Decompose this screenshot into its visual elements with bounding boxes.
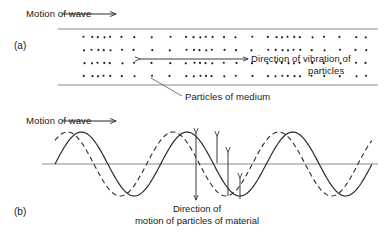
medium-particle-dot — [299, 36, 301, 38]
medium-particle-dot — [97, 36, 99, 38]
medium-particle-dot — [109, 49, 111, 51]
medium-particle-dot — [299, 49, 301, 51]
medium-particle-dot — [121, 75, 123, 77]
medium-particle-dot — [281, 75, 283, 77]
medium-particle-dot — [109, 36, 111, 38]
medium-particle-dot — [365, 75, 367, 77]
medium-particle-dot — [91, 75, 93, 77]
medium-particle-dot — [355, 75, 357, 77]
medium-particle-dot — [193, 75, 195, 77]
wave-diagram-figure: Motion of wave (a) Direction of vibratio… — [0, 0, 384, 234]
medium-particle-dot — [286, 36, 288, 38]
medium-particle-dot — [151, 75, 153, 77]
medium-particle-dot — [211, 62, 213, 64]
medium-particle-dot — [235, 49, 237, 51]
panel-label-b: (b) — [14, 206, 26, 217]
medium-particle-dot — [120, 36, 122, 38]
medium-particle-dot — [169, 36, 171, 38]
medium-particle-dot — [267, 75, 269, 77]
medium-particle-dot — [365, 49, 367, 51]
medium-particle-dot — [223, 62, 225, 64]
medium-particle-dot — [250, 49, 252, 51]
medium-particle-dot — [354, 49, 356, 51]
medium-particle-dot — [293, 36, 295, 38]
direction-of-motion-caption-line2: motion of particles of material — [97, 215, 297, 227]
medium-particle-dot — [311, 36, 313, 38]
medium-particle-dot — [169, 49, 171, 51]
medium-particle-dot — [287, 75, 289, 77]
medium-particle-dot — [223, 36, 225, 38]
medium-particle-dot — [193, 49, 195, 51]
medium-particle-dot — [299, 75, 301, 77]
medium-particle-dot — [97, 49, 99, 51]
medium-particle-dot — [133, 36, 135, 38]
direction-of-vibration-label-line1: Direction of vibration of — [251, 53, 351, 64]
medium-particle-dot — [355, 36, 357, 38]
medium-particle-dot — [338, 36, 340, 38]
panel-b-transverse-group — [42, 121, 378, 200]
medium-particle-dot — [121, 49, 123, 51]
medium-particle-dot — [323, 36, 325, 38]
medium-particle-dot — [82, 36, 84, 38]
medium-particle-dot — [133, 75, 135, 77]
medium-particle-dot — [83, 62, 85, 64]
medium-particle-dot — [91, 62, 93, 64]
medium-particle-dot — [97, 75, 99, 77]
medium-particle-dot — [151, 36, 153, 38]
medium-particle-dot — [223, 49, 225, 51]
medium-particle-dot — [251, 75, 253, 77]
medium-particle-dot — [211, 49, 213, 51]
medium-particle-dot — [275, 49, 277, 51]
medium-particle-dot — [210, 75, 212, 77]
medium-particle-dot — [292, 49, 294, 51]
medium-particle-dot — [91, 36, 93, 38]
medium-particle-dot — [365, 36, 367, 38]
medium-particle-dot — [150, 62, 152, 64]
medium-particle-dot — [211, 36, 213, 38]
direction-of-motion-caption-line1: Direction of — [112, 203, 282, 215]
medium-particle-dot — [205, 49, 207, 51]
medium-particle-dot — [223, 75, 225, 77]
particles-of-medium-leader-line — [151, 78, 182, 96]
medium-particle-dot — [199, 36, 201, 38]
medium-particle-dot — [199, 62, 201, 64]
medium-particle-dot — [103, 62, 105, 64]
medium-particle-dot — [199, 75, 201, 77]
medium-particle-dot — [251, 36, 253, 38]
medium-particle-dot — [102, 75, 104, 77]
medium-particle-dot — [311, 49, 313, 51]
medium-particle-dot — [234, 36, 236, 38]
medium-particle-dot — [281, 49, 283, 51]
medium-particle-dot — [339, 49, 341, 51]
medium-particle-dot — [235, 75, 237, 77]
medium-particle-dot — [275, 36, 277, 38]
medium-particle-dot — [83, 75, 85, 77]
panel-label-a: (a) — [14, 40, 26, 51]
medium-particle-dot — [109, 75, 111, 77]
medium-particle-dot — [103, 36, 105, 38]
medium-particle-dot — [168, 75, 170, 77]
medium-particle-dot — [287, 49, 289, 51]
particle-displacement-arrows — [196, 133, 240, 200]
medium-particle-dot — [192, 36, 194, 38]
medium-particle-dot — [205, 75, 207, 77]
medium-particle-dot — [364, 62, 366, 64]
medium-particle-dot — [293, 75, 295, 77]
medium-particle-dot — [267, 49, 269, 51]
medium-particle-dot — [323, 49, 325, 51]
medium-particle-dot — [267, 36, 269, 38]
motion-of-wave-label-b: Motion of wave — [26, 115, 91, 126]
medium-particle-dot — [133, 62, 135, 64]
medium-particle-dot — [96, 62, 98, 64]
medium-particle-dot — [103, 49, 105, 51]
medium-particle-dot — [151, 49, 153, 51]
medium-particle-dot — [281, 36, 283, 38]
medium-particle-dot — [185, 36, 187, 38]
medium-particle-dot — [132, 49, 134, 51]
medium-particle-dot — [185, 49, 187, 51]
medium-particle-dot — [185, 75, 187, 77]
medium-particle-dot — [355, 62, 357, 64]
medium-particle-dot — [235, 62, 237, 64]
medium-particle-dot — [193, 62, 195, 64]
medium-particle-dot — [205, 36, 207, 38]
